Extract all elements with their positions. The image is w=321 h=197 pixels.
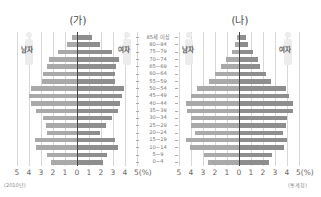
y-tick-mark xyxy=(136,59,139,60)
y-tick-mark xyxy=(136,74,139,75)
male-bar xyxy=(67,42,77,47)
y-tick-mark xyxy=(175,133,178,134)
female-bar xyxy=(240,64,260,69)
x-unit-label: 5(%) xyxy=(296,168,314,177)
y-tick-mark xyxy=(175,81,178,82)
male-bar xyxy=(49,57,77,62)
x-tick-label: 4 xyxy=(189,168,194,177)
source-note-left: (2010년) xyxy=(4,181,26,188)
y-tick-mark xyxy=(136,118,139,119)
male-label-right: 남자 xyxy=(182,44,194,54)
y-tick-mark xyxy=(175,52,178,53)
y-tick-mark xyxy=(175,155,178,156)
male-bar xyxy=(191,116,239,121)
female-bar xyxy=(78,50,112,55)
x-tick-label: 1 xyxy=(249,168,254,177)
x-tick-label: 0 xyxy=(237,168,242,177)
x-tick-label: 3 xyxy=(111,168,116,177)
male-bar xyxy=(197,86,239,91)
y-tick-mark xyxy=(175,162,178,163)
x-tick-label: 4 xyxy=(123,168,128,177)
female-bar xyxy=(240,101,293,106)
age-group-label: 35~39 xyxy=(136,108,180,113)
female-bar xyxy=(78,116,112,121)
y-tick-mark xyxy=(136,140,139,141)
y-tick-mark xyxy=(175,125,178,126)
female-bar xyxy=(78,72,115,77)
x-tick-label: 5 xyxy=(177,168,182,177)
male-bar xyxy=(187,109,239,114)
age-group-label: 15~19 xyxy=(136,137,180,142)
female-bar xyxy=(240,123,286,128)
x-tick-label: 4 xyxy=(285,168,290,177)
y-tick-mark xyxy=(136,162,139,163)
age-group-label: 40~44 xyxy=(136,101,180,106)
x-tick-label: 3 xyxy=(273,168,278,177)
male-bar xyxy=(186,101,239,106)
male-label-left: 남자 xyxy=(21,44,33,54)
age-group-label: 65~69 xyxy=(136,64,180,69)
male-bar xyxy=(31,101,77,106)
female-bar xyxy=(78,64,116,69)
female-bar xyxy=(240,79,271,84)
y-tick-mark xyxy=(136,96,139,97)
female-bar xyxy=(78,145,118,150)
female-bar xyxy=(240,72,266,77)
female-bar xyxy=(78,153,107,158)
female-bar xyxy=(240,109,293,114)
male-bar xyxy=(221,64,239,69)
male-bar xyxy=(47,153,77,158)
female-bar xyxy=(240,160,269,165)
male-bar xyxy=(29,94,77,99)
female-bar xyxy=(78,160,103,165)
age-group-label: 10~14 xyxy=(136,145,180,150)
age-group-label: 60~64 xyxy=(136,71,180,76)
age-group-label: 55~59 xyxy=(136,79,180,84)
y-tick-mark xyxy=(136,111,139,112)
x-tick-label: 3 xyxy=(39,168,44,177)
age-group-label: 80~84 xyxy=(136,42,180,47)
female-bar xyxy=(78,138,115,143)
y-tick-mark xyxy=(175,59,178,60)
male-bar xyxy=(191,123,239,128)
x-tick-label: 1 xyxy=(225,168,230,177)
age-group-label: 75~79 xyxy=(136,49,180,54)
male-bar xyxy=(215,72,239,77)
y-tick-mark xyxy=(175,44,178,45)
male-bar xyxy=(235,42,239,47)
y-tick-mark xyxy=(175,111,178,112)
female-bar xyxy=(78,109,118,114)
chart-title-left: (가) xyxy=(48,12,108,27)
y-tick-mark xyxy=(175,140,178,141)
female-bar xyxy=(78,131,100,136)
male-bar xyxy=(191,94,239,99)
y-tick-mark xyxy=(175,37,178,38)
x-tick-label: 5 xyxy=(15,168,20,177)
female-bar xyxy=(240,116,287,121)
male-bar xyxy=(186,138,239,143)
y-tick-mark xyxy=(175,96,178,97)
male-bar xyxy=(208,160,239,165)
female-bar xyxy=(78,86,124,91)
female-bar xyxy=(240,138,287,143)
female-label-right: 여자 xyxy=(279,44,291,54)
y-tick-mark xyxy=(136,133,139,134)
y-tick-mark xyxy=(175,74,178,75)
female-bar xyxy=(78,42,100,47)
male-bar xyxy=(42,79,77,84)
gridline xyxy=(299,32,300,166)
female-bar xyxy=(240,57,258,62)
male-bar xyxy=(237,35,239,40)
male-bar xyxy=(72,35,77,40)
female-bar xyxy=(240,94,289,99)
age-group-label: 50~54 xyxy=(136,86,180,91)
y-tick-mark xyxy=(136,155,139,156)
age-group-label: 45~49 xyxy=(136,93,180,98)
x-tick-label: 1 xyxy=(87,168,92,177)
female-bar xyxy=(78,57,119,62)
y-tick-mark xyxy=(136,44,139,45)
male-bar xyxy=(43,72,77,77)
male-bar xyxy=(36,109,77,114)
y-tick-mark xyxy=(136,125,139,126)
chart-title-right: (나) xyxy=(210,12,270,27)
